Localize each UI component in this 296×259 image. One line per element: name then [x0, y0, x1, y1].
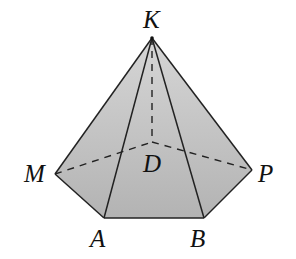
- label-D: D: [142, 150, 161, 177]
- label-M: M: [23, 160, 46, 187]
- apex-point: [150, 36, 154, 40]
- label-K: K: [142, 6, 161, 33]
- pyramid-diagram: K M D P A B: [0, 0, 296, 259]
- label-P: P: [257, 160, 273, 187]
- pyramid-faces: [55, 38, 252, 218]
- label-A: A: [88, 225, 106, 252]
- label-B: B: [190, 225, 205, 252]
